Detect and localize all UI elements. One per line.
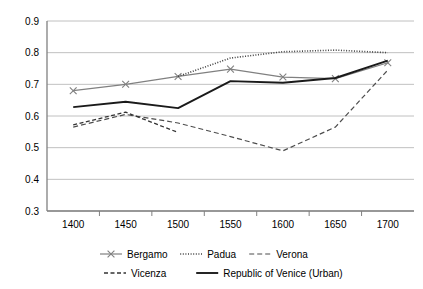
line-chart: 0.30.40.50.60.70.80.9 140014501500155016…	[0, 0, 423, 289]
legend-label[interactable]: Vicenza	[131, 268, 167, 279]
legend-label[interactable]: Padua	[207, 249, 236, 260]
y-tick-label: 0.8	[25, 47, 39, 58]
x-tick-label: 1500	[167, 219, 190, 230]
x-tick-label: 1600	[272, 219, 295, 230]
legend-label[interactable]: Republic of Venice (Urban)	[223, 268, 343, 279]
chart-background	[0, 0, 423, 289]
y-tick-label: 0.7	[25, 79, 39, 90]
x-tick-label: 1400	[62, 219, 85, 230]
y-tick-label: 0.5	[25, 142, 39, 153]
y-tick-label: 0.9	[25, 16, 39, 27]
y-tick-label: 0.3	[25, 206, 39, 217]
x-tick-label: 1650	[324, 219, 347, 230]
x-tick-label: 1450	[115, 219, 138, 230]
chart-container: 0.30.40.50.60.70.80.9 140014501500155016…	[0, 0, 423, 289]
y-tick-label: 0.4	[25, 174, 39, 185]
y-tick-label: 0.6	[25, 111, 39, 122]
legend-label[interactable]: Bergamo	[127, 249, 168, 260]
x-tick-label: 1700	[377, 219, 400, 230]
x-tick-label: 1550	[219, 219, 242, 230]
legend-label[interactable]: Verona	[276, 249, 308, 260]
